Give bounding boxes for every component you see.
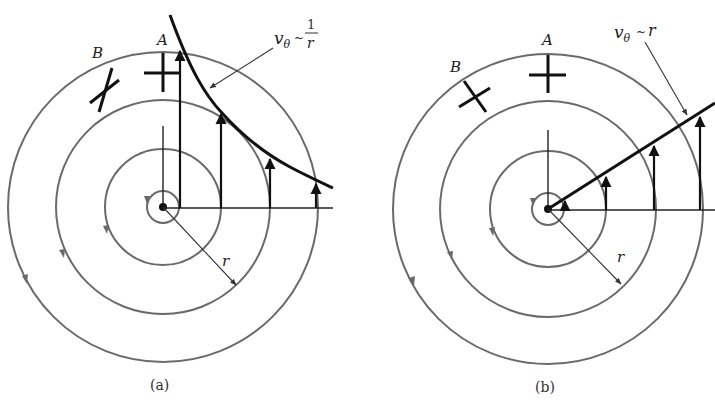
velocity-law-label-a: vθ ~ 1 r: [274, 17, 318, 51]
label-B: B: [91, 44, 103, 62]
svg-text:1: 1: [307, 17, 315, 32]
law-leader-line: [645, 42, 687, 115]
svg-text:vθ: vθ: [614, 22, 631, 45]
radius-arrow: [163, 207, 236, 285]
fluid-element-a: [529, 55, 566, 93]
fluid-element-b: [90, 68, 119, 112]
caption-a: (a): [150, 377, 169, 393]
label-B: B: [449, 58, 461, 76]
fluid-element-b: [459, 81, 490, 112]
panel-a: r A B vθ ~ 1 r (a): [8, 15, 333, 393]
caption-b: (b): [535, 379, 555, 395]
velocity-vectors-a: [180, 51, 316, 208]
flow-arrow-icon: [103, 225, 109, 234]
svg-text:~: ~: [294, 31, 304, 45]
label-A: A: [540, 31, 553, 49]
panel-b: r A B vθ ~ r (b): [393, 21, 715, 395]
flow-arrow-icon: [447, 251, 453, 260]
fluid-element-a: [144, 53, 181, 92]
velocity-law-label-b: vθ ~ r: [614, 21, 657, 45]
radius-label: r: [222, 252, 230, 270]
svg-text:r: r: [307, 35, 315, 51]
flow-arrow-icon: [530, 198, 536, 206]
flow-arrow-icon: [59, 249, 65, 258]
radius-label: r: [617, 248, 625, 266]
label-A: A: [155, 31, 168, 49]
vortex-diagram: r A B vθ ~ 1 r (a): [0, 0, 715, 415]
svg-text:~: ~: [636, 25, 646, 39]
law-leader-line: [210, 48, 273, 88]
radius-arrow: [548, 209, 621, 284]
svg-text:vθ: vθ: [274, 28, 291, 51]
svg-text:r: r: [648, 21, 657, 40]
